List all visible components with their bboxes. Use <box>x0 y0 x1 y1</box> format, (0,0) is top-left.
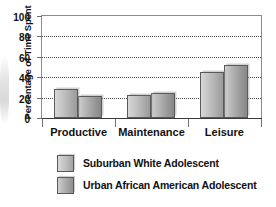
x-axis-tick <box>261 119 262 127</box>
bar <box>200 72 224 118</box>
x-axis-tick-label: Productive <box>50 126 107 138</box>
legend-swatch-suburban-white <box>57 155 74 172</box>
bar <box>151 93 175 118</box>
plot-area: 020406080100 <box>41 15 262 119</box>
plot-inner: 020406080100 <box>42 16 261 118</box>
y-axis-tick: 20 <box>37 98 42 99</box>
x-axis-tick <box>188 119 189 127</box>
legend-label-urban-african-american: Urban African American Adolescent <box>83 179 257 191</box>
y-axis-tick: 40 <box>37 77 42 78</box>
y-axis-tick-label: 60 <box>19 52 30 63</box>
scan-artifact <box>0 55 9 125</box>
y-axis-tick-label: 0 <box>24 114 30 125</box>
y-axis-tick: 60 <box>37 57 42 58</box>
legend-label-suburban-white: Suburban White Adolescent <box>83 157 219 169</box>
x-axis-tick <box>115 119 116 127</box>
x-axis-tick <box>42 119 43 127</box>
bar <box>127 95 151 118</box>
x-axis-line <box>41 118 262 119</box>
y-axis-tick-label: 40 <box>19 73 30 84</box>
bar <box>54 89 78 118</box>
gridline <box>42 36 261 37</box>
y-axis-tick: 100 <box>37 16 42 17</box>
chart-legend: Suburban White Adolescent Urban African … <box>57 152 257 196</box>
x-axis-tick-label: Leisure <box>205 126 244 138</box>
y-axis-tick: 80 <box>37 36 42 37</box>
bar <box>224 65 248 118</box>
bar <box>78 96 102 118</box>
gridline <box>42 57 261 58</box>
legend-item: Urban African American Adolescent <box>57 174 257 196</box>
y-axis-tick-label: 100 <box>13 12 30 23</box>
legend-swatch-urban-african-american <box>57 177 74 194</box>
legend-item: Suburban White Adolescent <box>57 152 257 174</box>
bar-chart-figure: Percentage of Time Spent 020406080100 Pr… <box>0 0 276 207</box>
y-axis-tick-label: 80 <box>19 32 30 43</box>
x-axis-tick-label: Maintenance <box>118 126 185 138</box>
y-axis-tick-label: 20 <box>19 93 30 104</box>
